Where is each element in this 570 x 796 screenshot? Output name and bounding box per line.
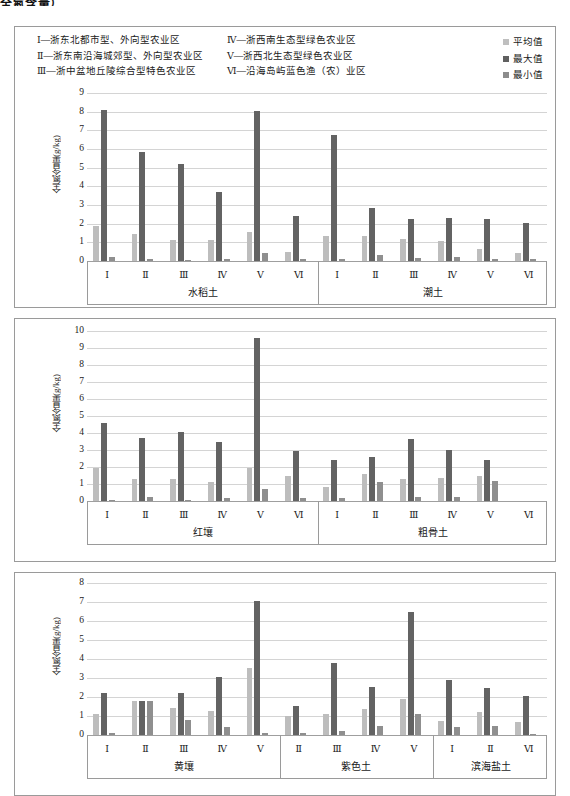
bar [362,709,368,735]
bar [477,249,483,261]
bar [408,439,414,501]
bar [185,720,191,735]
y-axis: 012345678 [61,583,87,735]
bar [293,216,299,261]
y-tick-label: 1 [79,711,84,721]
y-tick-label: 6 [79,144,84,154]
y-tick-label: 4 [79,654,84,664]
y-tick-label: 7 [79,597,84,607]
y-tick-label: 3 [79,673,84,683]
y-tick-label: 8 [79,360,84,370]
y-tick-label: 10 [75,326,85,336]
bar [101,110,107,261]
bar [446,680,452,735]
y-tick-label: 4 [79,182,84,192]
category-axis: ⅠⅡⅢⅣⅤ黄壤ⅡⅢⅣⅤ紫色土ⅠⅡⅥ滨海盐土 [87,735,547,779]
bar [93,468,99,501]
bar [216,442,222,502]
bar [477,712,483,735]
y-tick-label: 9 [79,88,84,98]
chart-panel-3: 全氮含量(g/kg)012345678ⅠⅡⅢⅣⅤ黄壤ⅡⅢⅣⅤ紫色土ⅠⅡⅥ滨海盐土 [14,572,556,796]
y-tick-label: 6 [79,394,84,404]
y-tick-label: 2 [79,692,84,702]
y-tick-label: 5 [79,411,84,421]
bar [515,722,521,735]
bar [224,727,230,735]
y-axis: 0123456789 [61,93,87,261]
bar [523,696,529,735]
bar [408,612,414,735]
bar [285,252,291,261]
bar [331,663,337,735]
bar [323,487,329,501]
bar [323,714,329,735]
bar [438,721,444,735]
bars-layer [87,93,547,261]
bar [170,479,176,501]
panel-label: 滨海盐土 [433,756,548,778]
y-tick-label: 2 [79,462,84,472]
bar [408,219,414,261]
legend-label-max: 最大值 [513,51,543,68]
bar [247,468,253,501]
region-label-5: Ⅴ—浙西北生态型绿色农业区 [227,49,353,65]
bar [362,474,368,501]
region-label-1: Ⅰ—浙东北都市型、外向型农业区 [37,33,227,49]
bar [377,726,383,735]
y-tick-label: 2 [79,219,84,229]
bar [477,476,483,501]
region-key-text: Ⅰ—浙东北都市型、外向型农业区Ⅳ—浙西南生态型绿色农业区 Ⅱ—浙东南沿海城郊型、… [37,33,366,80]
region-label-4: Ⅳ—浙西南生态型绿色农业区 [227,33,356,49]
category-axis: ⅠⅡⅢⅣⅤⅥ红壤ⅠⅡⅢⅣⅤⅥ粗骨土 [87,501,547,545]
bar [492,726,498,735]
bar [132,479,138,501]
y-tick-label: 8 [79,578,84,588]
bar [400,479,406,501]
chart-panel-2: 全氮含量(g/kg)012345678910ⅠⅡⅢⅣⅤⅥ红壤ⅠⅡⅢⅣⅤⅥ粗骨土 [14,318,556,562]
y-tick-label: 5 [79,635,84,645]
y-tick-label: 1 [79,238,84,248]
bar [178,432,184,501]
bar [523,223,529,261]
bar [323,236,329,261]
bar [285,716,291,735]
bar [438,478,444,501]
bar [484,219,490,261]
bar [101,423,107,501]
region-label-6: Ⅵ—沿海岛屿蓝色渔（农）业区 [227,64,366,80]
bar [331,460,337,501]
bar [293,706,299,735]
bar [139,438,145,501]
bar [446,450,452,501]
bars-layer [87,583,547,735]
bar [293,451,299,501]
bar [93,714,99,735]
bar [93,226,99,261]
y-tick-label: 0 [79,256,84,266]
bar [208,711,214,735]
bar [247,668,253,735]
plot-area-1: 全氮含量(g/kg)0123456789ⅠⅡⅢⅣⅤⅥ水稻土ⅠⅡⅢⅣⅤⅥ潮土 [61,93,547,305]
y-tick-label: 0 [79,496,84,506]
page-title: 全氮含量） [0,0,63,6]
legend-label-mean: 平均值 [513,34,543,51]
bar [208,240,214,261]
bar [362,236,368,261]
bar [132,234,138,261]
category-axis: ⅠⅡⅢⅣⅤⅥ水稻土ⅠⅡⅢⅣⅤⅥ潮土 [87,261,547,305]
bar [377,482,383,501]
panel-label: 黄壤 [88,756,280,778]
bar [254,601,260,735]
plot-area-3: 全氮含量(g/kg)012345678ⅠⅡⅢⅣⅤ黄壤ⅡⅢⅣⅤ紫色土ⅠⅡⅥ滨海盐土 [61,583,547,779]
region-label-2: Ⅱ—浙东南沿海城郊型、外向型农业区 [37,49,227,65]
bar [484,460,490,501]
y-tick-label: 3 [79,200,84,210]
bar [454,727,460,735]
y-tick-label: 4 [79,428,84,438]
panel-label: 水稻土 [88,282,318,304]
bar [438,241,444,261]
bar [139,152,145,261]
bar [492,481,498,501]
bar [262,253,268,261]
legend-entry-max: 最大值 [503,51,543,68]
